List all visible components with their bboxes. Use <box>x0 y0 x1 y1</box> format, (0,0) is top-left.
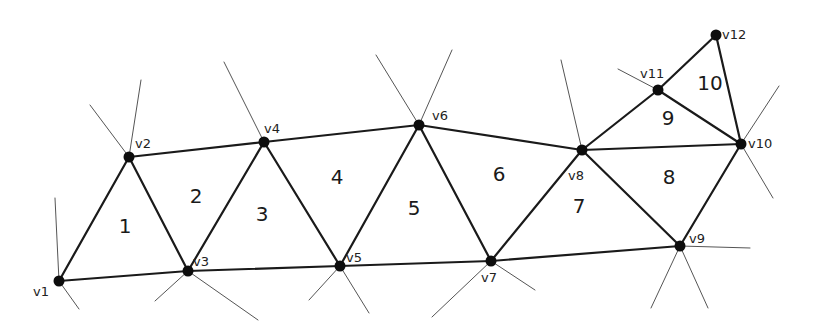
edge-v7-v9 <box>491 246 680 261</box>
vertex-label-v4: v4 <box>264 121 280 136</box>
edge-v8-v11 <box>582 90 658 150</box>
stub-line-v7 <box>491 261 535 290</box>
vertex-v4 <box>259 137 270 148</box>
edge-v3-v5 <box>188 266 340 271</box>
edge-v6-v7 <box>419 125 491 261</box>
stub-line-v5 <box>340 266 369 313</box>
vertex-v10 <box>736 139 747 150</box>
mesh-edges <box>59 35 741 281</box>
stub-line-v5 <box>309 266 340 300</box>
triangle-label-3: 3 <box>256 202 269 226</box>
triangle-label-5: 5 <box>408 196 421 220</box>
triangle-label-8: 8 <box>663 165 676 189</box>
edge-v4-v6 <box>264 125 419 142</box>
vertex-label-v3: v3 <box>193 254 209 269</box>
vertex-label-v2: v2 <box>135 136 151 151</box>
vertex-label-v7: v7 <box>481 270 497 285</box>
vertex-label-v9: v9 <box>689 231 705 246</box>
vertex-v7 <box>486 256 497 267</box>
vertex-label-v10: v10 <box>748 136 772 151</box>
vertex-labels: v1v2v3v4v5v6v7v8v9v10v11v12 <box>33 27 772 299</box>
triangle-label-6: 6 <box>493 162 506 186</box>
vertex-v3 <box>183 266 194 277</box>
edge-v4-v5 <box>264 142 340 266</box>
edge-v5-v7 <box>340 261 491 266</box>
triangle-label-4: 4 <box>331 165 344 189</box>
edge-v1-v3 <box>59 271 188 281</box>
stub-line-v9 <box>651 246 680 308</box>
stub-line-v8 <box>561 60 582 150</box>
edge-v8-v10 <box>582 144 741 150</box>
stub-line-v6 <box>376 55 419 125</box>
edge-v6-v8 <box>419 125 582 150</box>
vertex-label-v12: v12 <box>722 27 746 42</box>
vertex-label-v6: v6 <box>432 108 448 123</box>
vertex-label-v5: v5 <box>346 250 362 265</box>
vertex-v2 <box>124 152 135 163</box>
stub-line-v10 <box>741 144 773 198</box>
triangle-label-9: 9 <box>662 106 675 130</box>
stub-line-v9 <box>680 246 750 248</box>
stub-line-v3 <box>155 271 188 301</box>
triangle-label-7: 7 <box>573 194 586 218</box>
edge-v2-v3 <box>129 157 188 271</box>
vertex-v11 <box>653 85 664 96</box>
vertex-label-v1: v1 <box>33 284 49 299</box>
stub-line-v3 <box>188 271 258 320</box>
vertex-label-v11: v11 <box>640 66 664 81</box>
vertex-v12 <box>711 30 722 41</box>
triangle-labels: 12345678910 <box>119 71 723 238</box>
triangle-mesh-diagram: v1v2v3v4v5v6v7v8v9v10v11v12 12345678910 <box>0 0 821 331</box>
vertex-v8 <box>577 145 588 156</box>
stub-line-v1 <box>55 198 59 281</box>
triangle-label-1: 1 <box>119 214 132 238</box>
stub-line-v2 <box>90 105 129 157</box>
vertex-v1 <box>54 276 65 287</box>
vertex-label-v8: v8 <box>568 168 584 183</box>
stub-line-v4 <box>224 62 264 142</box>
vertex-v6 <box>414 120 425 131</box>
triangle-label-10: 10 <box>697 71 722 95</box>
triangle-label-2: 2 <box>190 184 203 208</box>
stub-line-v9 <box>680 246 708 308</box>
vertex-v9 <box>675 241 686 252</box>
vertex-v5 <box>335 261 346 272</box>
